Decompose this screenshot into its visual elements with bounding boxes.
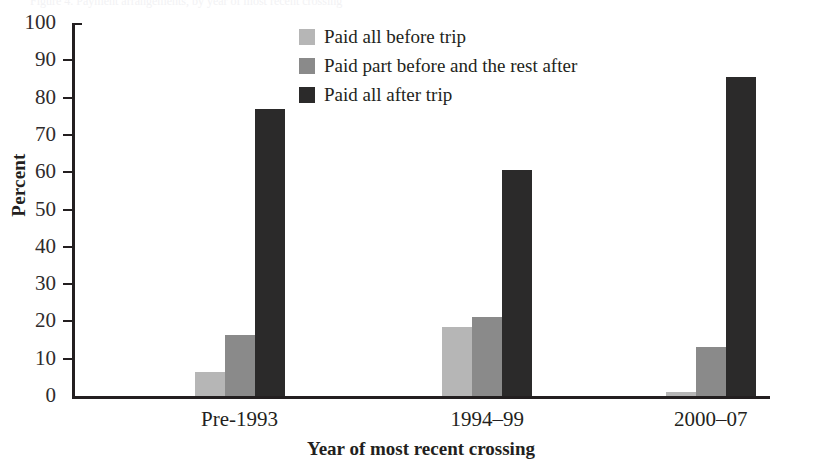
y-axis-tick — [63, 171, 72, 173]
y-axis-tick-label: 100 — [6, 12, 56, 33]
bar — [726, 77, 756, 396]
y-axis-tick-label: 90 — [6, 49, 56, 70]
y-axis-tick — [63, 97, 72, 99]
bar — [666, 392, 696, 396]
x-axis-line — [72, 396, 770, 399]
y-axis-tick — [63, 209, 72, 211]
bar-chart: Figure 4. Payment arrangements, by year … — [0, 0, 813, 476]
bar — [502, 170, 532, 396]
y-axis-tick-label: 70 — [6, 124, 56, 145]
y-axis-tick-label: 0 — [6, 385, 56, 406]
cropped-figure-caption: Figure 4. Payment arrangements, by year … — [30, 0, 770, 8]
legend-item: Paid part before and the rest after — [299, 52, 577, 79]
bar — [472, 317, 502, 396]
y-axis-tick-label: 80 — [6, 87, 56, 108]
y-axis-tick — [63, 358, 72, 360]
y-axis-tick-label: 60 — [6, 161, 56, 182]
chart-legend: Paid all before tripPaid part before and… — [299, 23, 577, 110]
y-axis-tick-label: 20 — [6, 310, 56, 331]
y-axis-tick-label: 40 — [6, 236, 56, 257]
x-axis-tick-label: 2000–07 — [611, 407, 811, 432]
y-axis-tick — [63, 59, 72, 61]
y-axis-tick — [63, 246, 72, 248]
legend-item: Paid all before trip — [299, 23, 577, 50]
x-axis-title: Year of most recent crossing — [72, 438, 770, 460]
y-axis-tick — [63, 320, 72, 322]
bar — [255, 109, 285, 396]
bar — [225, 335, 255, 396]
bar — [195, 372, 225, 396]
bar — [442, 327, 472, 396]
y-axis-tick-label: 30 — [6, 273, 56, 294]
y-axis-tick — [63, 283, 72, 285]
legend-item-label: Paid part before and the rest after — [324, 55, 577, 77]
y-axis-tick-label: 10 — [6, 348, 56, 369]
legend-item: Paid all after trip — [299, 81, 577, 108]
x-axis-tick-label: Pre-1993 — [140, 407, 340, 432]
legend-item-label: Paid all before trip — [324, 26, 466, 48]
legend-swatch-icon — [299, 87, 315, 103]
bar — [696, 347, 726, 396]
y-axis-tick — [63, 134, 72, 136]
legend-item-label: Paid all after trip — [324, 84, 452, 106]
legend-swatch-icon — [299, 58, 315, 74]
legend-swatch-icon — [299, 29, 315, 45]
y-axis-tick-label: 50 — [6, 199, 56, 220]
x-axis-tick-label: 1994–99 — [387, 407, 587, 432]
